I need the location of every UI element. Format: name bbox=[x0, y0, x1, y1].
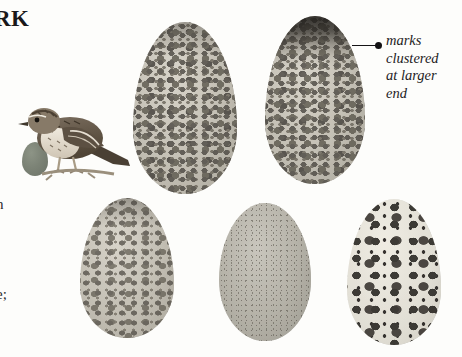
perched-lark-illustration bbox=[18, 88, 134, 184]
margin-text-fragment-1: h bbox=[0, 196, 4, 213]
egg-shell bbox=[80, 198, 174, 338]
egg-shell bbox=[347, 199, 441, 345]
egg-plate-illustration: RK h e; bbox=[0, 0, 462, 357]
egg-cap-shading bbox=[133, 22, 237, 194]
callout-line-3: at larger bbox=[386, 67, 439, 85]
egg-specimen-1 bbox=[133, 22, 237, 194]
callout-label: marks clustered at larger end bbox=[386, 32, 439, 102]
egg-specimen-5 bbox=[347, 199, 441, 345]
page-title-fragment: RK bbox=[0, 6, 30, 32]
egg-dark-cap bbox=[265, 16, 365, 184]
callout-line-2: clustered bbox=[386, 50, 439, 68]
egg-specimen-3 bbox=[80, 198, 174, 338]
callout-line-4: end bbox=[386, 85, 439, 103]
egg-shell bbox=[219, 203, 311, 341]
egg-shell bbox=[265, 16, 365, 184]
egg-speckle-pattern bbox=[347, 199, 441, 345]
egg-cap-shading bbox=[80, 198, 174, 338]
egg-shell bbox=[133, 22, 237, 194]
egg-speckle-pattern bbox=[219, 203, 311, 341]
margin-text-fragment-2: e; bbox=[0, 286, 7, 303]
egg-specimen-2 bbox=[265, 16, 365, 184]
callout-line-1: marks bbox=[386, 32, 439, 50]
callout-leader-dot bbox=[375, 42, 382, 49]
egg-specimen-4 bbox=[219, 203, 311, 341]
